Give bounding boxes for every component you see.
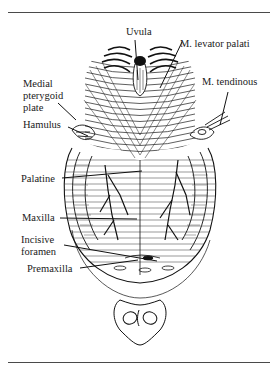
leader-hamulus — [68, 127, 88, 136]
label-palatine: Palatine — [21, 173, 55, 185]
palate-illustration — [0, 0, 280, 371]
label-levator-palati: M. levator palati — [180, 38, 250, 50]
label-hamulus: Hamulus — [23, 119, 61, 131]
leader-maxilla — [60, 218, 137, 219]
label-maxilla: Maxilla — [22, 212, 55, 224]
leader-tendinous — [220, 92, 228, 125]
label-uvula: Uvula — [126, 26, 152, 38]
label-incisive-line2: foramen — [21, 246, 56, 258]
hamulus-left — [72, 125, 95, 140]
nose-structure — [114, 300, 166, 345]
label-medial-pterygoid-line3: plate — [23, 102, 63, 114]
label-premaxilla: Premaxilla — [27, 263, 73, 275]
hamulus-right — [190, 112, 230, 139]
label-incisive-line1: Incisive — [21, 234, 56, 246]
label-medial-pterygoid-line1: Medial — [23, 78, 63, 90]
label-incisive-foramen: Incisive foramen — [21, 234, 56, 258]
label-medial-pterygoid-line2: pterygoid — [23, 90, 63, 102]
leader-incisive — [64, 245, 157, 261]
label-tendinous: M. tendinous — [202, 76, 257, 88]
label-medial-pterygoid-plate: Medial pterygoid plate — [23, 78, 63, 114]
